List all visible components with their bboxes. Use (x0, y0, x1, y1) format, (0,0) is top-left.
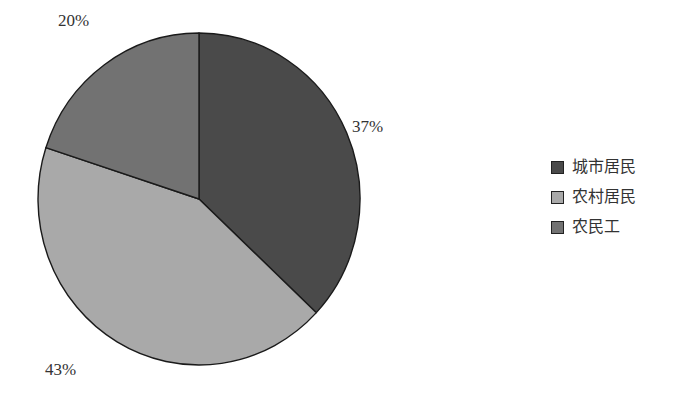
slice-label-migrant: 20% (58, 11, 89, 30)
legend-swatch-urban (551, 161, 564, 174)
legend-label-rural: 农村居民 (572, 189, 636, 205)
legend-label-urban: 城市居民 (572, 159, 636, 175)
legend-item-urban: 城市居民 (551, 152, 636, 182)
slice-label-rural: 43% (45, 360, 76, 379)
legend-item-migrant: 农民工 (551, 212, 636, 242)
legend-label-migrant: 农民工 (572, 219, 620, 235)
slice-label-urban: 37% (352, 117, 383, 136)
legend-swatch-rural (551, 191, 564, 204)
legend: 城市居民 农村居民 农民工 (551, 152, 636, 242)
pie-slices (38, 33, 360, 365)
legend-item-rural: 农村居民 (551, 182, 636, 212)
legend-swatch-migrant (551, 221, 564, 234)
